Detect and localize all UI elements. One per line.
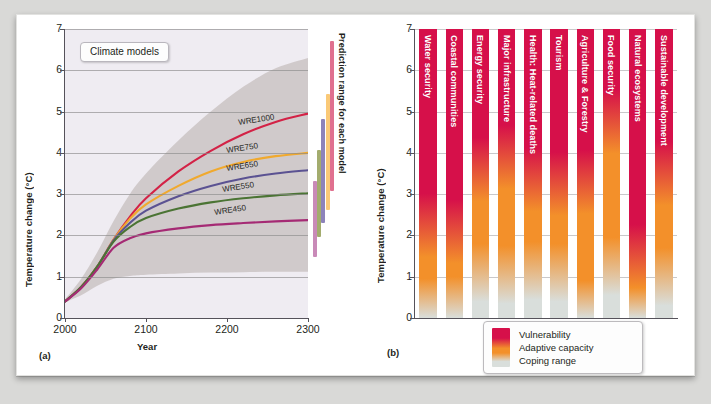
panel-b-tag: (b): [387, 347, 399, 358]
panel-a-y-tick-label: 6: [42, 63, 62, 75]
risk-bar-food-security[interactable]: Food security: [603, 29, 620, 318]
panel-a-y-tick-label: 4: [42, 146, 62, 158]
panel-a-x-tick-label: 2000: [45, 323, 85, 335]
panel-a-climate-models: Temperature change (°C) 01234567 2000210…: [17, 15, 357, 377]
panel-a-x-tick-mark: [65, 318, 66, 322]
risk-bar-label: Major infrastructure: [502, 35, 512, 122]
panel-a-x-axis-line: [64, 318, 309, 319]
panel-a-y-tick-mark: [60, 29, 64, 30]
panel-a-y-tick-label: 0: [42, 311, 62, 323]
risk-bar-health-heat-related-deaths[interactable]: Health: Heat-related deaths: [524, 29, 541, 318]
climate-models-callout: Climate models: [80, 42, 169, 62]
risk-bar-label: Health: Heat-related deaths: [528, 35, 538, 154]
panel-a-x-tick-label: 2200: [207, 323, 247, 335]
panel-a-gridline: [65, 70, 308, 71]
panel-a-y-tick-label: 3: [42, 187, 62, 199]
panel-b-y-tick-label: 3: [392, 187, 412, 199]
panel-b-y-axis-title: Temperature change (°C): [375, 93, 386, 283]
panel-a-x-tick-mark: [146, 318, 147, 322]
risk-bar-label: Food security: [606, 35, 616, 95]
legend-label-list: VulnerabilityAdaptive capacityCoping ran…: [519, 328, 634, 367]
legend-item-adaptive-capacity: Adaptive capacity: [519, 341, 634, 354]
panel-a-y-tick-mark: [60, 235, 64, 236]
risk-bar-energy-security[interactable]: Energy security: [472, 29, 489, 318]
risk-bar-coastal-communities[interactable]: Coastal communities: [446, 29, 463, 318]
panel-b-y-tick-label: 4: [392, 146, 412, 158]
panel-b-y-tick-mark: [410, 318, 414, 319]
panel-b-y-tick-label: 2: [392, 228, 412, 240]
risk-bar-tourism[interactable]: Tourism: [550, 29, 567, 318]
panel-b-y-tick-label: 6: [392, 63, 412, 75]
panel-b-plot-area: Water securityCoastal communitiesEnergy …: [415, 29, 677, 318]
panel-a-y-tick-mark: [60, 277, 64, 278]
risk-bar-label: Tourism: [554, 35, 564, 71]
prediction-range-bar-wre1000: [330, 41, 334, 191]
panel-b-y-tick-mark: [410, 29, 414, 30]
panel-a-gridline: [65, 153, 308, 154]
panel-a-curves: [65, 29, 308, 318]
panel-a-y-axis-title: Temperature change (°C): [23, 87, 34, 287]
panel-b-legend: VulnerabilityAdaptive capacityCoping ran…: [483, 321, 643, 374]
panel-a-x-tick-mark: [227, 318, 228, 322]
panel-a-tag: (a): [39, 350, 51, 361]
risk-bar-sustainable-development[interactable]: Sustainable development: [655, 29, 672, 318]
panel-a-y-tick-label: 7: [42, 22, 62, 34]
panel-b-y-tick-mark: [410, 194, 414, 195]
panel-a-y-axis-line: [64, 29, 65, 319]
panel-a-y-tick-mark: [60, 194, 64, 195]
legend-item-vulnerability: Vulnerability: [519, 328, 634, 341]
panel-b-y-tick-mark: [410, 277, 414, 278]
panel-a-gridline: [65, 29, 308, 30]
panel-b-x-axis-line: [414, 318, 678, 319]
panel-a-y-tick-label: 2: [42, 228, 62, 240]
panel-a-gridline: [65, 235, 308, 236]
panel-b-y-tick-label: 1: [392, 270, 412, 282]
risk-bar-major-infrastructure[interactable]: Major infrastructure: [498, 29, 515, 318]
panel-a-y-tick-label: 1: [42, 270, 62, 282]
risk-bar-natural-ecosystems[interactable]: Natural ecosystems: [629, 29, 646, 318]
legend-item-coping-range: Coping range: [519, 354, 634, 367]
risk-bar-label: Energy security: [475, 35, 485, 104]
figure-page: Temperature change (°C) 01234567 2000210…: [16, 14, 695, 376]
panel-a-x-tick-label: 2300: [288, 323, 328, 335]
panel-a-prediction-range-bars: [313, 29, 335, 319]
legend-gradient-swatch: [492, 328, 510, 367]
prediction-range-bar-wre750: [326, 94, 330, 210]
panel-b-y-tick-label: 0: [392, 311, 412, 323]
panel-b-risk-bars: Temperature change (°C) Water securityCo…: [357, 15, 696, 377]
risk-bar-label: Coastal communities: [449, 35, 459, 127]
panel-b-y-tick-mark: [410, 112, 414, 113]
panel-a-y-tick-mark: [60, 318, 64, 319]
panel-a-prediction-range-title: Prediction range for each model: [337, 33, 347, 213]
panel-b-y-tick-label: 5: [392, 105, 412, 117]
panel-b-y-axis-line: [414, 29, 415, 319]
panel-a-x-tick-label: 2100: [126, 323, 166, 335]
panel-a-y-tick-mark: [60, 153, 64, 154]
risk-bar-water-security[interactable]: Water security: [419, 29, 436, 318]
panel-a-y-tick-mark: [60, 70, 64, 71]
panel-a-x-tick-mark: [308, 318, 309, 322]
panel-b-y-tick-mark: [410, 153, 414, 154]
panel-a-gridline: [65, 194, 308, 195]
panel-a-x-axis-title: Year: [137, 341, 157, 352]
panel-a-y-tick-mark: [60, 112, 64, 113]
panel-a-gridline: [65, 277, 308, 278]
risk-bar-label: Natural ecosystems: [633, 35, 643, 122]
risk-bar-label: Water security: [423, 35, 433, 98]
panel-a-y-tick-label: 5: [42, 105, 62, 117]
risk-bar-agriculture-forestry[interactable]: Agriculture & Forestry: [577, 29, 594, 318]
panel-b-y-tick-mark: [410, 70, 414, 71]
panel-a-plot-area: [65, 29, 308, 318]
panel-b-y-tick-label: 7: [392, 22, 412, 34]
risk-bar-label: Agriculture & Forestry: [580, 35, 590, 133]
panel-b-y-tick-mark: [410, 235, 414, 236]
risk-bar-label: Sustainable development: [659, 35, 669, 146]
prediction-range-bar-wre650: [321, 119, 325, 223]
